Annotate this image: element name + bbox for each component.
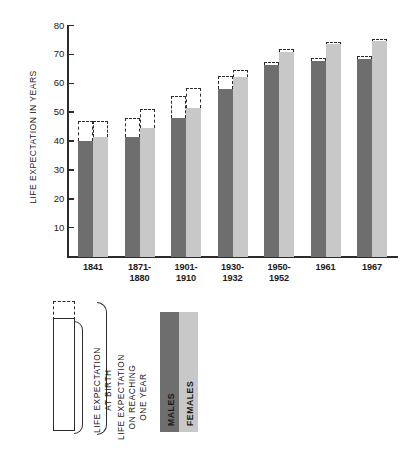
y-axis-tick-label: 40	[40, 136, 64, 146]
y-axis-tick	[67, 169, 74, 171]
bar-male	[78, 141, 93, 257]
whisker-male-one-year	[78, 121, 93, 141]
x-axis-label: 1967	[342, 262, 402, 273]
y-axis-tick	[67, 111, 74, 113]
bar-female	[233, 77, 248, 256]
bar-group	[78, 0, 108, 257]
y-axis-tick	[67, 83, 74, 85]
x-axis-label-line2: 1952	[249, 273, 309, 284]
whisker-male-one-year	[125, 118, 140, 137]
y-axis-tick-label: 70	[40, 49, 64, 59]
chart-root: LIFE EXPECTATION IN YEARS 10203040506070…	[0, 0, 406, 455]
legend-at-birth-line2: AT BIRTH	[103, 369, 113, 410]
bar-group	[264, 0, 294, 257]
y-axis-tick	[67, 25, 74, 27]
legend-one-year-label: LIFE EXPECTATION ON REACHING ONE YEAR	[116, 354, 149, 440]
legend-at-birth-label: LIFE EXPECTATION AT BIRTH	[92, 347, 114, 433]
bar-group	[311, 0, 341, 257]
whisker-male-one-year	[311, 58, 326, 61]
whisker-female-one-year	[186, 88, 201, 108]
bar-female	[186, 108, 201, 257]
bar-male	[264, 65, 279, 256]
whisker-female-one-year	[372, 39, 387, 42]
y-axis-tick	[67, 198, 74, 200]
bar-group	[218, 0, 248, 257]
whisker-female-one-year	[326, 42, 341, 45]
bar-group	[125, 0, 155, 257]
y-axis-tick	[67, 54, 74, 56]
y-axis-tick	[67, 227, 74, 229]
bar-group	[357, 0, 387, 257]
bar-male	[357, 59, 372, 257]
y-axis-tick-label: 80	[40, 21, 64, 31]
bar-female	[326, 44, 341, 256]
bar-group	[171, 0, 201, 257]
bar-female	[140, 128, 155, 256]
bar-male	[125, 137, 140, 257]
whisker-female-one-year	[279, 49, 294, 52]
bar-male	[311, 61, 326, 257]
legend-at-birth-line1: LIFE EXPECTATION	[92, 347, 102, 433]
whisker-male-one-year	[264, 62, 279, 65]
bar-male	[218, 89, 233, 256]
legend-females-label: FEMALES	[185, 381, 195, 426]
whisker-female-one-year	[140, 109, 155, 128]
y-axis-tick-label: 10	[40, 223, 64, 233]
legend-at-birth-sample	[53, 318, 75, 431]
legend-one-year-line3: ONE YEAR	[138, 374, 148, 421]
y-axis-tick-label: 60	[40, 78, 64, 88]
y-axis-tick	[67, 140, 74, 142]
whisker-female-one-year	[93, 121, 108, 137]
whisker-male-one-year	[357, 56, 372, 59]
legend-one-year-line1: LIFE EXPECTATION	[116, 354, 126, 440]
bar-female	[93, 137, 108, 257]
y-axis-tick-label: 30	[40, 165, 64, 175]
y-axis-tick-label: 50	[40, 107, 64, 117]
chart-legend: LIFE EXPECTATION AT BIRTH LIFE EXPECTATI…	[0, 300, 406, 455]
legend-males-label: MALES	[166, 393, 176, 426]
bar-female	[372, 41, 387, 256]
x-axis-label-line1: 1967	[342, 262, 402, 273]
whisker-male-one-year	[171, 96, 186, 118]
legend-one-year-line2: ON REACHING	[127, 365, 137, 430]
plot-area: LIFE EXPECTATION IN YEARS 10203040506070…	[0, 0, 406, 300]
whisker-male-one-year	[218, 76, 233, 89]
y-axis-tick-label: 20	[40, 194, 64, 204]
bar-male	[171, 118, 186, 257]
legend-brace-at-birth	[74, 321, 83, 434]
whisker-female-one-year	[233, 70, 248, 77]
y-axis-title: LIFE EXPECTATION IN YEARS	[28, 42, 38, 232]
bar-female	[279, 52, 294, 257]
